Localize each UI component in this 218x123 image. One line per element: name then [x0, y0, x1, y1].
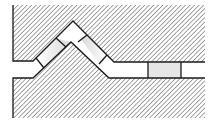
cross-section-diagram	[0, 0, 218, 123]
seal-channel-rect	[148, 63, 181, 78]
